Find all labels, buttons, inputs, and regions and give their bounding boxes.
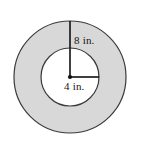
inner-radius-label: 4 in.	[64, 81, 85, 92]
center-point-dot	[68, 75, 72, 79]
outer-radius-label: 8 in.	[74, 35, 95, 46]
annulus-diagram-svg	[0, 0, 141, 153]
annulus-figure: 8 in. 4 in.	[0, 0, 141, 153]
